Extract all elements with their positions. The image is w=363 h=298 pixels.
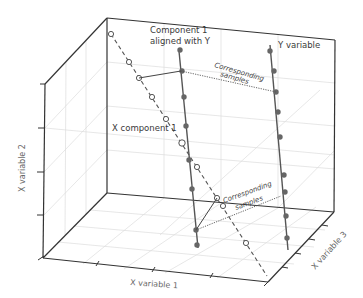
x-component-series	[108, 31, 267, 276]
label-component-aligned-2: aligned with Y	[150, 36, 211, 46]
label-y-variable: Y variable	[277, 40, 320, 50]
label-component-aligned-1: Component 1	[150, 25, 207, 35]
grid-lines	[44, 23, 335, 278]
3d-diagram: Component 1 aligned with Y Y variable X …	[0, 0, 363, 298]
axis-label-x3: X variable 3	[310, 230, 349, 272]
y-variable-series	[267, 45, 289, 250]
axis-ticks	[37, 84, 328, 286]
axis-label-x1: X variable 1	[130, 278, 178, 290]
axis-label-x2: X variable 2	[18, 144, 27, 192]
label-x-component: X component 1	[112, 123, 177, 133]
